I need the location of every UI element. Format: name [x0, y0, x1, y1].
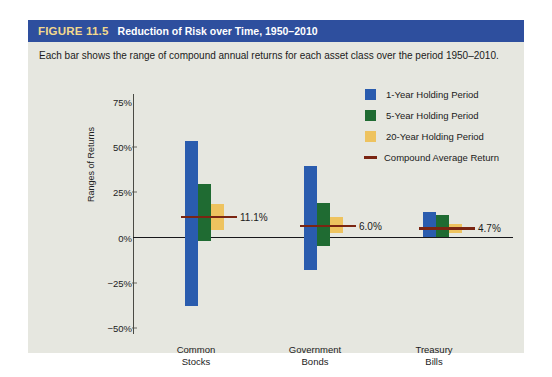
bar-1yr-common-stocks [185, 141, 198, 306]
legend-label: 1-Year Holding Period [386, 89, 479, 100]
x-category-line1: Treasury [415, 344, 452, 356]
x-category-line1: Government [289, 344, 341, 356]
y-tick-label: 50% [86, 142, 132, 153]
y-tick-label: 75% [86, 97, 132, 108]
legend-label: 5-Year Holding Period [386, 110, 479, 121]
x-category-label-treasury-bills: Treasury Bills [415, 344, 452, 368]
legend-item-average: Compound Average Return [365, 147, 499, 168]
legend-item-1yr: 1-Year Holding Period [365, 84, 499, 105]
y-axis-tick-labels: 75% 50% 25% 0% −25% −50% [76, 72, 132, 353]
figure-number: FIGURE 11.5 [38, 25, 109, 37]
avg-line-treasury-bills [419, 227, 475, 230]
y-tick-label: −50% [86, 323, 132, 334]
avg-label-common-stocks: 11.1% [240, 211, 268, 222]
avg-label-treasury-bills: 4.7% [478, 223, 501, 234]
y-tick-label: −25% [86, 278, 132, 289]
legend-swatch-green-icon [365, 110, 376, 121]
x-category-line1: Common [177, 344, 216, 356]
legend-label: 20-Year Holding Period [386, 131, 484, 142]
x-category-line2: Bonds [289, 356, 341, 368]
y-tick-label: 25% [86, 187, 132, 198]
figure-header: FIGURE 11.5 Reduction of Risk over Time,… [28, 20, 524, 42]
x-category-label-government-bonds: Government Bonds [289, 344, 341, 368]
chart-legend: 1-Year Holding Period 5-Year Holding Per… [365, 84, 499, 168]
bar-1yr-treasury-bills [423, 212, 436, 237]
y-axis-line [133, 94, 134, 334]
figure-panel: FIGURE 11.5 Reduction of Risk over Time,… [28, 20, 524, 353]
plot-area: 11.1% 6.0% 4.7% Common Stocks Government… [133, 72, 513, 353]
x-category-line2: Stocks [177, 356, 216, 368]
bar-1yr-government-bonds [304, 166, 317, 269]
x-category-label-common-stocks: Common Stocks [177, 344, 216, 368]
legend-swatch-yellow-icon [365, 131, 376, 142]
legend-item-20yr: 20-Year Holding Period [365, 126, 499, 147]
avg-line-government-bonds [300, 225, 356, 228]
avg-line-common-stocks [181, 216, 237, 219]
chart-plot: Ranges of Returns 75% 50% 25% 0% −25% −5… [28, 72, 524, 353]
legend-item-5yr: 5-Year Holding Period [365, 105, 499, 126]
legend-label: Compound Average Return [384, 152, 499, 163]
y-tick-label: 0% [86, 233, 132, 244]
legend-swatch-blue-icon [365, 89, 376, 100]
avg-label-government-bonds: 6.0% [359, 221, 382, 232]
legend-line-icon [364, 156, 377, 159]
x-category-line2: Bills [415, 356, 452, 368]
bar-5yr-common-stocks [198, 184, 211, 240]
figure-title: Reduction of Risk over Time, 1950–2010 [118, 25, 318, 37]
figure-subtitle: Each bar shows the range of compound ann… [39, 50, 509, 61]
bar-5yr-treasury-bills [436, 215, 449, 237]
